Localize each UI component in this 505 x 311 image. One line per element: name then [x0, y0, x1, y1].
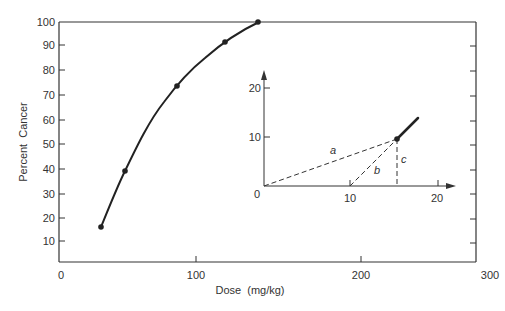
inset-x-tick-0: 0 — [254, 188, 260, 200]
x-tick-200: 200 — [352, 269, 370, 281]
x-axis-ticks — [196, 256, 361, 262]
y-tick-70: 70 — [43, 89, 55, 101]
inset-y-tick-20: 20 — [249, 82, 261, 94]
x-tick-300: 300 — [481, 269, 499, 281]
y-axis-ticks — [59, 45, 65, 241]
inset-curve-segment — [397, 118, 418, 139]
y-tick-30: 30 — [43, 188, 55, 200]
y-tick-50: 50 — [43, 138, 55, 150]
inset-y-arrow-icon — [261, 70, 267, 80]
inset-label-b: b — [374, 164, 380, 176]
main-plot-frame — [59, 22, 476, 262]
data-point — [222, 39, 228, 45]
inset-label-a: a — [330, 144, 336, 156]
inset-x-tick-10: 10 — [344, 192, 356, 204]
dose-response-chart: 100 90 80 70 60 50 40 30 20 10 0 100 200… — [0, 0, 505, 311]
y-tick-90: 90 — [43, 39, 55, 51]
y-tick-100: 100 — [37, 16, 55, 28]
y-tick-labels: 100 90 80 70 60 50 40 30 20 10 — [37, 16, 55, 247]
y-axis-title: Percent Cancer — [17, 102, 29, 182]
inset-point — [394, 136, 400, 142]
x-tick-0: 0 — [58, 269, 64, 281]
y-tick-20: 20 — [43, 212, 55, 224]
inset-label-c: c — [401, 153, 407, 165]
y-tick-60: 60 — [43, 114, 55, 126]
inset-x-tick-20: 20 — [431, 192, 443, 204]
inset-line-b — [350, 139, 397, 186]
inset-x-arrow-icon — [446, 183, 456, 189]
data-point — [255, 19, 261, 25]
y-tick-40: 40 — [43, 163, 55, 175]
dose-response-curve — [101, 22, 259, 227]
x-tick-labels: 0 100 200 300 — [58, 269, 499, 281]
x-tick-100: 100 — [187, 269, 205, 281]
x-axis-title: Dose (mg/kg) — [215, 284, 284, 296]
y-tick-80: 80 — [43, 64, 55, 76]
data-point — [122, 168, 128, 174]
right-axis-ticks — [470, 46, 476, 243]
inset-chart: 20 10 0 10 20 a b c — [249, 70, 456, 204]
data-point — [98, 224, 104, 230]
inset-y-tick-10: 10 — [249, 131, 261, 143]
data-points — [98, 19, 261, 230]
inset-ticks — [264, 88, 438, 186]
data-point — [174, 83, 180, 89]
y-tick-10: 10 — [43, 235, 55, 247]
